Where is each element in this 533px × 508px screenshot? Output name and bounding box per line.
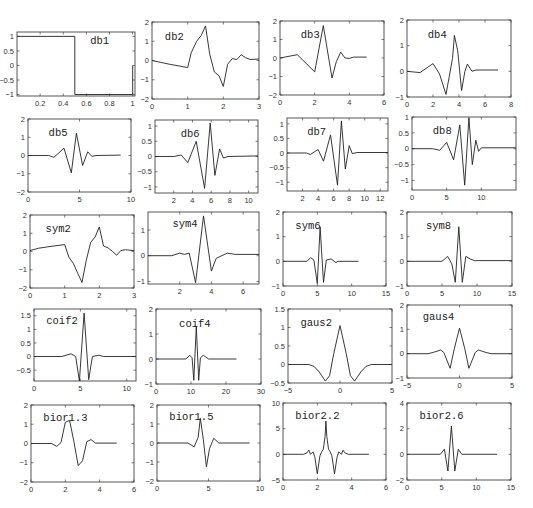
subplot-sym4: 24610−1sym4 (136, 212, 259, 296)
x-tick-label: 10 (472, 483, 480, 492)
x-tick-label: 5 (206, 484, 210, 493)
subplot-db8: 051010.50−0.5−1db8 (394, 113, 516, 202)
y-tick-label: 1 (27, 325, 31, 334)
y-tick-label: −1 (136, 277, 145, 286)
x-tick-label: 0 (405, 483, 409, 492)
x-tick-label: 0 (150, 102, 154, 111)
x-tick-label: 4 (347, 98, 351, 107)
x-tick-label: 30 (257, 387, 265, 396)
x-tick-label: 15 (382, 289, 390, 298)
x-tick-label: 8 (509, 100, 513, 109)
y-tick-label: −1 (19, 458, 28, 467)
y-tick-label: 0 (273, 54, 277, 63)
x-tick-label: 0 (405, 289, 409, 298)
y-tick-label: 0 (400, 257, 404, 266)
y-tick-label: 0 (27, 352, 31, 361)
axes-frame (148, 212, 259, 284)
y-tick-label: 2 (400, 424, 404, 433)
y-tick-label: −1 (400, 176, 409, 185)
y-tick-label: −2 (18, 284, 27, 293)
y-tick-label: −2 (140, 95, 149, 104)
subplot-title: gaus2 (300, 317, 332, 329)
y-tick-label: 1 (24, 420, 28, 429)
x-tick-label: 0.4 (58, 99, 68, 108)
y-tick-label: −2 (16, 188, 25, 197)
x-tick-label: −5 (403, 381, 412, 390)
y-tick-label: −2 (268, 91, 277, 100)
x-tick-label: 2 (63, 485, 67, 494)
x-tick-label: 10 (187, 387, 195, 396)
y-tick-label: 1 (280, 120, 284, 129)
x-tick-label: 0 (154, 387, 158, 396)
subplot-sym8: 051015210−1sym8 (395, 208, 516, 298)
x-tick-label: 6 (384, 483, 388, 492)
x-tick-label: 4 (98, 485, 102, 494)
subplot-title: bior1.5 (169, 411, 213, 423)
x-tick-label: 6 (132, 485, 136, 494)
x-tick-label: 10 (123, 384, 131, 393)
x-tick-label: 5 (78, 384, 82, 393)
y-tick-label: 2 (400, 208, 404, 217)
subplot-title: sym8 (426, 220, 451, 232)
subplot-title: coif4 (179, 318, 211, 330)
y-tick-label: 0 (24, 439, 28, 448)
y-tick-label: 2 (23, 211, 27, 220)
x-tick-label: 0 (281, 483, 285, 492)
subplot-db3: 0246210−1−2db3 (268, 17, 386, 107)
x-tick-label: 0.8 (104, 99, 114, 108)
x-tick-label: 0 (281, 289, 285, 298)
x-tick-label: 20 (222, 387, 230, 396)
x-tick-label: 10 (256, 484, 264, 493)
x-tick-label: 0.6 (81, 99, 91, 108)
x-tick-label: 0 (26, 195, 30, 204)
subplot-title: bior1.3 (43, 412, 87, 424)
y-tick-label: 0 (400, 450, 404, 459)
y-tick-label: −1 (268, 72, 277, 81)
y-tick-label: −1 (395, 93, 404, 102)
x-tick-label: 0 (278, 98, 282, 107)
x-tick-label: −5 (284, 386, 293, 395)
x-tick-label: 5 (77, 195, 81, 204)
y-tick-label: 1 (141, 226, 145, 235)
y-tick-label: 2 (24, 401, 28, 410)
y-tick-label: −1 (275, 178, 284, 187)
y-tick-label: 1 (148, 122, 152, 131)
y-tick-label: −1 (395, 282, 404, 291)
y-tick-label: −0.5 (270, 379, 285, 388)
y-tick-label: 0 (280, 149, 284, 158)
y-tick-label: 0 (276, 257, 280, 266)
x-tick-label: 10 (473, 289, 481, 298)
x-tick-label: 4 (209, 287, 213, 296)
x-tick-label: 10 (347, 289, 355, 298)
y-tick-label: 1 (405, 113, 409, 122)
y-tick-label: −2 (145, 477, 154, 486)
y-tick-label: −5 (271, 476, 280, 485)
subplot-coif4: 0102030210−1coif4 (144, 305, 265, 396)
subplot-db6: 24681010.50−0.5−1db6 (137, 120, 258, 205)
x-tick-label: 10 (244, 196, 252, 205)
y-tick-label: 0 (405, 144, 409, 153)
axes-frame (407, 20, 511, 97)
y-tick-label: −1 (395, 374, 404, 383)
y-tick-label: −1 (145, 458, 154, 467)
y-tick-label: 0 (400, 67, 404, 76)
subplot-bior1-5: 0510210−1−2bior1.5 (145, 401, 264, 493)
x-tick-label: 1 (131, 99, 135, 108)
x-tick-label: 8 (228, 196, 232, 205)
x-tick-label: 12 (376, 194, 384, 203)
x-tick-label: 6 (241, 287, 245, 296)
subplot-bior2-6: 051015420−2bior2.6 (395, 399, 515, 492)
y-tick-label: 2 (150, 401, 154, 410)
x-tick-label: 3 (257, 102, 261, 111)
x-tick-label: 2 (172, 196, 176, 205)
y-tick-label: 1 (21, 133, 25, 142)
y-tick-label: 0 (10, 61, 14, 70)
y-tick-label: 1 (273, 35, 277, 44)
subplot-gaus2: −5051.510.50−0.5gaus2 (270, 305, 394, 395)
subplot-title: db3 (301, 29, 320, 41)
x-tick-label: 4 (316, 194, 320, 203)
axes-frame (17, 32, 135, 96)
x-tick-label: 4 (457, 100, 461, 109)
x-tick-label: 10 (127, 195, 135, 204)
y-tick-label: 2 (273, 17, 277, 26)
